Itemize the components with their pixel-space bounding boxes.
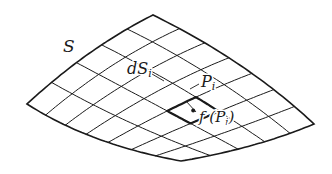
label-dS-i: dSi [127, 59, 152, 80]
label-f-of-P-i: f (Pi) [198, 108, 234, 127]
grid-line [52, 82, 211, 155]
surface-grid [46, 29, 295, 156]
label-P-i: Pi [200, 72, 215, 93]
surface-diagram-canvas: S dSi Pi f (Pi) [0, 0, 332, 174]
leader-line-P-i [190, 84, 199, 89]
label-surface-S: S [63, 36, 75, 56]
surface-diagram: S dSi Pi f (Pi) [0, 0, 332, 174]
leader-line-f-P-i [186, 101, 196, 112]
